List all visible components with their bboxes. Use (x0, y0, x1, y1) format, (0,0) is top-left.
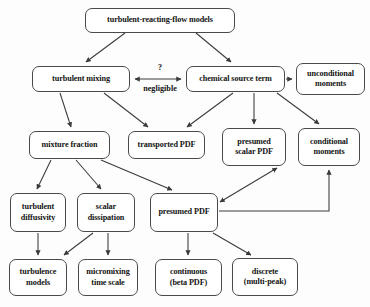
edge-mixing-to-mixfrac (60, 93, 71, 127)
node-label-condmom: conditional moments (310, 137, 348, 158)
edge-source-to-transported (187, 93, 233, 127)
node-micromix[interactable]: micromixing time scale (78, 259, 138, 296)
node-root[interactable]: turbulent-reacting-flow models (85, 8, 235, 33)
node-turbmodels[interactable]: turbulence models (9, 259, 67, 296)
node-label-presumedsc: presumed scalar PDF (235, 137, 273, 158)
node-label-mixing: turbulent mixing (52, 74, 110, 85)
node-presumedpdf[interactable]: presumed PDF (150, 193, 218, 232)
edge-mixfrac-to-turbdiff (37, 160, 51, 189)
edge-mixing-to-transported (104, 93, 148, 127)
edge-presumedpdf-to-presumedsc (220, 168, 277, 202)
node-transported[interactable]: transported PDF (128, 131, 205, 159)
edge-mixfrac-to-scaldiss (76, 160, 101, 189)
diagram-canvas: turbulent-reacting-flow modelsturbulent … (0, 0, 370, 307)
node-label-presumedpdf: presumed PDF (158, 207, 209, 218)
node-label-transported: transported PDF (138, 140, 196, 151)
node-uncond[interactable]: unconditional moments (296, 63, 365, 95)
edge-root-to-mixing (86, 33, 125, 62)
edge-scaldiss-to-turbmodels (64, 233, 93, 255)
edge-mixfrac-to-presumedpdf (101, 160, 172, 190)
node-label-uncond: unconditional moments (307, 69, 354, 90)
node-turbdiff[interactable]: turbulent diffusivity (10, 193, 66, 232)
edge-label-question: ? (158, 63, 162, 72)
edge-presumedpdf-to-condmom (219, 170, 329, 211)
edge-label-negligible: negligible (143, 84, 177, 93)
node-label-turbdiff: turbulent diffusivity (21, 202, 55, 223)
node-presumedsc[interactable]: presumed scalar PDF (222, 128, 286, 166)
node-mixing[interactable]: turbulent mixing (32, 66, 130, 92)
node-source[interactable]: chemical source term (186, 66, 285, 92)
node-label-continuous: continuous (beta PDF) (170, 267, 207, 288)
node-label-turbmodels: turbulence models (20, 267, 57, 288)
node-continuous[interactable]: continuous (beta PDF) (155, 259, 222, 296)
node-label-mixfrac: mixture fraction (42, 140, 98, 151)
node-label-scaldiss: scalar dissipation (88, 202, 125, 223)
edge-root-to-source (196, 33, 231, 62)
node-mixfrac[interactable]: mixture fraction (29, 131, 110, 159)
node-label-source: chemical source term (199, 74, 271, 85)
edge-source-to-condmom (277, 93, 319, 124)
node-scaldiss[interactable]: scalar dissipation (77, 193, 135, 232)
node-discrete[interactable]: discrete (multi-peak) (232, 258, 298, 296)
node-label-root: turbulent-reacting-flow models (107, 15, 213, 26)
edge-presumedpdf-to-discrete (213, 233, 251, 255)
node-label-discrete: discrete (multi-peak) (244, 267, 286, 288)
node-condmom[interactable]: conditional moments (298, 128, 360, 166)
node-label-micromix: micromixing time scale (86, 267, 129, 288)
